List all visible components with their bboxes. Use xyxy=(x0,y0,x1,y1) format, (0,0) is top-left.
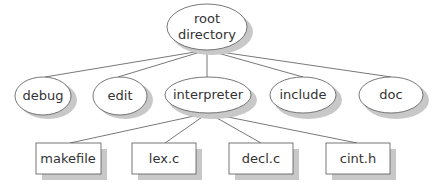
makefile-label: makefile xyxy=(40,151,96,166)
node-interpreter: interpreter xyxy=(165,77,257,119)
node-root: root directory xyxy=(167,4,253,55)
directory-tree-diagram: root directory debug edit interpreter in… xyxy=(0,0,444,188)
node-debug: debug xyxy=(15,77,77,119)
node-include: include xyxy=(270,77,342,119)
edit-label: edit xyxy=(108,88,133,103)
include-label: include xyxy=(279,87,326,102)
root-label-line1: root xyxy=(194,11,220,26)
node-decl-c: decl.c xyxy=(229,143,299,180)
decl-c-label: decl.c xyxy=(242,151,280,166)
cint-h-label: cint.h xyxy=(340,151,376,166)
debug-label: debug xyxy=(23,88,64,103)
node-doc: doc xyxy=(359,77,429,119)
node-lex-c: lex.c xyxy=(132,143,202,180)
node-edit: edit xyxy=(93,77,153,119)
edge-root-edit xyxy=(118,50,207,77)
edge-root-debug xyxy=(45,50,207,77)
interpreter-label: interpreter xyxy=(173,87,244,102)
root-label-line2: directory xyxy=(178,27,236,42)
edge-interpreter-makefile xyxy=(70,113,208,143)
doc-label: doc xyxy=(379,87,402,102)
node-cint-h: cint.h xyxy=(326,143,396,180)
lex-c-label: lex.c xyxy=(149,151,179,166)
node-makefile: makefile xyxy=(36,143,107,180)
edge-interpreter-cint xyxy=(208,113,357,143)
edge-root-doc xyxy=(207,50,391,77)
